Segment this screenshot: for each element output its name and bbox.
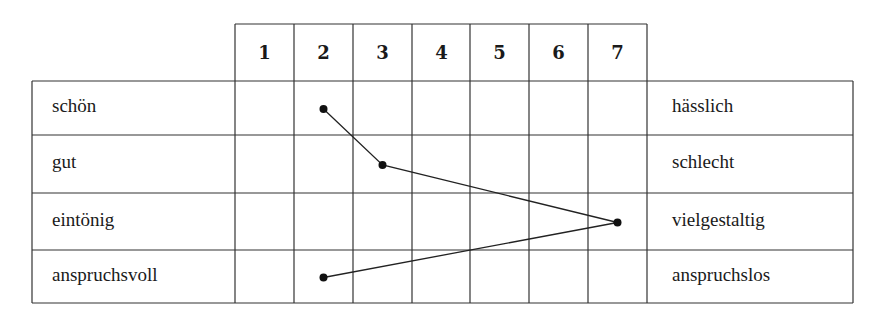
scale-header-6: 6 [529,43,588,63]
rating-dot [320,274,328,282]
left-pole-label: eintönig [52,210,114,230]
right-pole-label: schlecht [672,152,734,172]
left-pole-label: schön [52,96,96,116]
scale-header-2: 2 [294,43,353,63]
left-pole-label: gut [52,152,76,172]
scale-header-4: 4 [412,43,471,63]
left-pole-label: anspruchsvoll [52,265,158,285]
right-pole-label: vielgestaltig [672,210,765,230]
rating-dot [614,219,622,227]
right-pole-label: hässlich [672,96,733,116]
right-pole-label: anspruchslos [672,265,770,285]
scale-header-5: 5 [470,43,529,63]
rating-dot [379,161,387,169]
scale-header-3: 3 [353,43,412,63]
scale-header-7: 7 [588,43,647,63]
rating-dot [320,105,328,113]
scale-header-1: 1 [235,43,294,63]
